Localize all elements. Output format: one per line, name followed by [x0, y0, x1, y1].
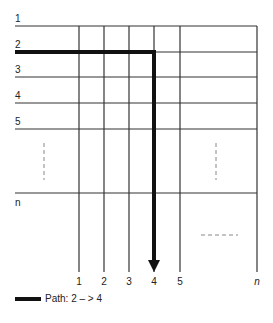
row-label-1: 1 [15, 13, 21, 24]
legend-path-swatch [15, 297, 41, 301]
grid-diagram: 12345n12345n [0, 0, 273, 323]
column-label-1: 1 [76, 276, 82, 287]
row-label-n: n [15, 197, 21, 208]
legend: Path: 2 – > 4 [15, 293, 102, 304]
row-label-3: 3 [15, 64, 21, 75]
arrow-head-icon [148, 260, 160, 272]
row-label-2: 2 [15, 39, 21, 50]
legend-label: Path: 2 – > 4 [45, 293, 102, 304]
column-label-5: 5 [177, 276, 183, 287]
row-label-5: 5 [15, 116, 21, 127]
column-label-2: 2 [101, 276, 107, 287]
path-line [15, 52, 154, 262]
column-label-4: 4 [151, 276, 157, 287]
column-label-n: n [254, 276, 260, 287]
row-label-4: 4 [15, 90, 21, 101]
column-label-3: 3 [126, 276, 132, 287]
